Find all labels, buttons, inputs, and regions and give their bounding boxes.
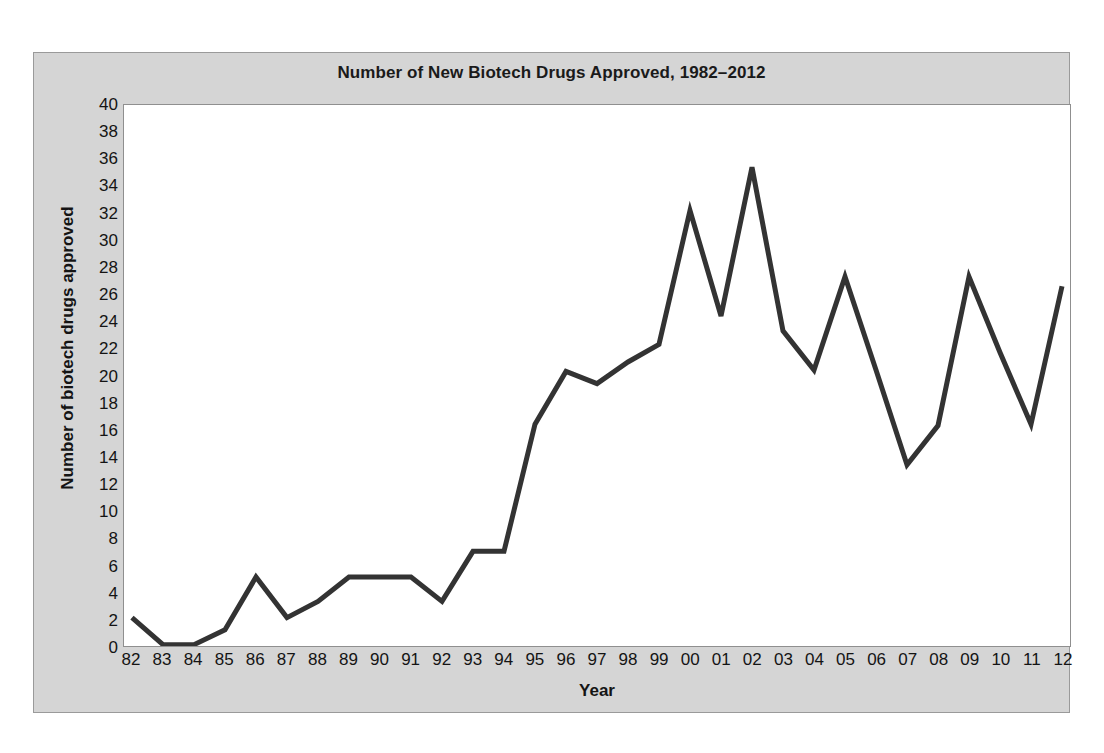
y-tick-label: 24 bbox=[78, 313, 118, 330]
data-series-line bbox=[132, 167, 1062, 644]
y-tick-label: 34 bbox=[78, 177, 118, 194]
y-tick-label: 14 bbox=[78, 448, 118, 465]
y-tick-label: 26 bbox=[78, 286, 118, 303]
y-axis-tick-labels: 0246810121416182022242628303234363840 bbox=[72, 104, 118, 647]
chart-frame: Number of New Biotech Drugs Approved, 19… bbox=[33, 52, 1070, 713]
y-tick-label: 22 bbox=[78, 340, 118, 357]
x-axis-title: Year bbox=[123, 681, 1071, 701]
y-tick-label: 16 bbox=[78, 421, 118, 438]
y-tick-label: 38 bbox=[78, 123, 118, 140]
y-tick-label: 32 bbox=[78, 204, 118, 221]
y-tick-label: 2 bbox=[78, 611, 118, 628]
y-tick-label: 10 bbox=[78, 503, 118, 520]
chart-title: Number of New Biotech Drugs Approved, 19… bbox=[34, 63, 1069, 83]
plot-area bbox=[123, 104, 1071, 647]
x-tick-label: 12 bbox=[1043, 651, 1083, 670]
x-axis-tick-labels: 8283848586878889909192939495969798990001… bbox=[123, 651, 1071, 677]
y-tick-label: 20 bbox=[78, 367, 118, 384]
data-line-chart bbox=[124, 105, 1070, 646]
y-tick-label: 18 bbox=[78, 394, 118, 411]
y-tick-label: 36 bbox=[78, 150, 118, 167]
y-tick-label: 6 bbox=[78, 557, 118, 574]
y-tick-label: 8 bbox=[78, 530, 118, 547]
figure-root: Number of New Biotech Drugs Approved, 19… bbox=[0, 0, 1104, 753]
y-tick-label: 28 bbox=[78, 258, 118, 275]
y-tick-label: 4 bbox=[78, 584, 118, 601]
y-tick-label: 12 bbox=[78, 476, 118, 493]
y-tick-label: 30 bbox=[78, 231, 118, 248]
y-tick-label: 40 bbox=[78, 96, 118, 113]
